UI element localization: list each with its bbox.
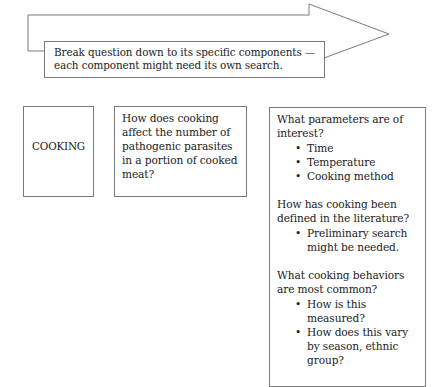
bullet-text: How is this measured? <box>307 298 366 324</box>
component-question: How has cooking been defined in the lite… <box>277 197 419 225</box>
topic-box: COOKING <box>23 106 94 197</box>
component-bullet-item: •How does this vary by season, ethnic gr… <box>295 325 419 367</box>
bullet-icon: • <box>295 155 301 169</box>
component-bullet-item: •Time <box>295 141 419 155</box>
components-box: What parameters are of interest? •Time •… <box>269 107 426 387</box>
topic-label: COOKING <box>24 139 93 153</box>
component-bullet-item: •Cooking method <box>295 169 419 183</box>
research-question-text: How does cooking affect the number of pa… <box>122 112 237 180</box>
component-bullet-item: •How is this measured? <box>295 297 419 325</box>
component-section: What cooking behaviors are most common? … <box>277 268 419 367</box>
bullet-icon: • <box>295 169 301 183</box>
arrow-callout-box: Break question down to its specific comp… <box>44 41 325 78</box>
research-question-box: How does cooking affect the number of pa… <box>114 106 247 197</box>
bullet-icon: • <box>295 297 301 311</box>
component-section: What parameters are of interest? •Time •… <box>277 112 419 183</box>
arrow-callout-text: Break question down to its specific comp… <box>54 46 315 71</box>
bullet-icon: • <box>295 325 301 339</box>
component-bullet-item: •Temperature <box>295 155 419 169</box>
component-question: What parameters are of interest? <box>277 112 419 140</box>
component-bullet-list: •How is this measured? •How does this va… <box>277 297 419 367</box>
bullet-text: Cooking method <box>307 170 394 182</box>
bullet-text: Time <box>307 142 333 154</box>
bullet-icon: • <box>295 226 301 240</box>
component-bullet-item: •Preliminary search might be needed. <box>295 226 419 254</box>
bullet-text: Temperature <box>307 156 375 168</box>
component-bullet-list: •Time •Temperature •Cooking method <box>277 141 419 183</box>
component-question: What cooking behaviors are most common? <box>277 268 419 296</box>
bullet-icon: • <box>295 141 301 155</box>
component-bullet-list: •Preliminary search might be needed. <box>277 226 419 254</box>
bullet-text: Preliminary search might be needed. <box>307 227 407 253</box>
bullet-text: How does this vary by season, ethnic gro… <box>307 326 408 366</box>
component-section: How has cooking been defined in the lite… <box>277 197 419 254</box>
